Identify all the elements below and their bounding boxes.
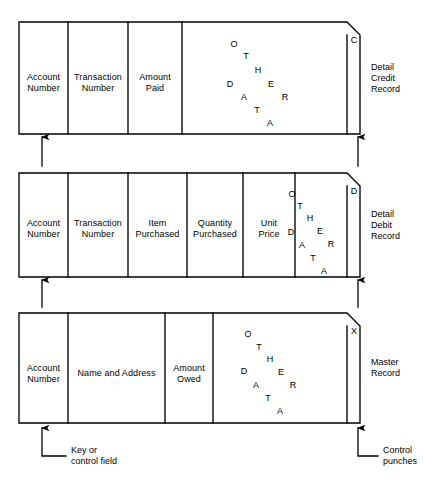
- cell-label-detail-debit-record-item-purchased-line-1: Item: [136, 218, 180, 229]
- other-data-letter-detail-credit-record-4: E: [268, 79, 274, 90]
- other-data-letter-detail-credit-record-9: A: [267, 118, 273, 129]
- control-punch-flag-master-record: X: [351, 326, 357, 337]
- other-data-letter-detail-debit-record-6: D: [288, 227, 295, 238]
- cell-label-detail-debit-record-transaction-number-line-1: Transaction: [74, 218, 122, 229]
- cell-label-detail-debit-record-quantity-purchased: QuantityPurchased: [193, 218, 237, 239]
- cell-label-detail-debit-record-unit-price-line-1: Unit: [258, 218, 279, 229]
- other-data-letter-detail-credit-record-7: A: [241, 92, 247, 103]
- side-label-detail-credit-record: DetailCreditRecord: [371, 62, 400, 95]
- other-data-letter-master-record-1: O: [244, 329, 251, 340]
- cell-label-detail-credit-record-transaction-number-line-1: Transaction: [74, 72, 122, 83]
- callout-key-or-control-field-text: Key orcontrol field: [71, 445, 117, 467]
- cell-label-master-record-name-and-address: Name and Address: [77, 368, 155, 379]
- cell-label-master-record-amount-owed-line-1: Amount: [173, 363, 205, 374]
- cell-label-detail-debit-record-transaction-number: TransactionNumber: [74, 218, 122, 239]
- side-label-detail-debit-record-line-3: Record: [371, 231, 400, 242]
- callout-control-punches-text-line-2: punches: [383, 456, 417, 467]
- callout-key-or-control-field-text-line-2: control field: [71, 456, 117, 467]
- other-data-letter-detail-credit-record-6: D: [227, 79, 234, 90]
- cell-label-detail-credit-record-transaction-number-line-2: Number: [74, 82, 122, 93]
- side-label-detail-credit-record-line-1: Detail: [371, 62, 400, 73]
- other-data-letter-master-record-6: D: [241, 366, 248, 377]
- control-punch-flag-detail-credit-record: C: [351, 35, 358, 46]
- cell-label-detail-credit-record-account-number-line-2: Number: [27, 82, 60, 93]
- other-data-letter-detail-credit-record-8: T: [254, 105, 260, 116]
- side-label-detail-debit-record-line-1: Detail: [371, 209, 400, 220]
- callout-key-or-control-field-leader: [42, 428, 66, 456]
- cell-label-master-record-account-number-line-2: Number: [27, 373, 60, 384]
- callout-key-or-control-field-text-line-1: Key or: [71, 445, 117, 456]
- cell-label-master-record-amount-owed: AmountOwed: [173, 363, 205, 384]
- cell-label-master-record-amount-owed-line-2: Owed: [173, 373, 205, 384]
- other-data-letter-detail-debit-record-2: T: [297, 201, 303, 212]
- cell-label-detail-debit-record-account-number: AccountNumber: [27, 218, 60, 239]
- cell-label-detail-debit-record-quantity-purchased-line-1: Quantity: [193, 218, 237, 229]
- other-data-letter-detail-credit-record-1: O: [230, 39, 237, 50]
- callout-control-punches-text: Controlpunches: [383, 445, 417, 467]
- cell-label-master-record-name-and-address-line-1: Name and Address: [77, 368, 155, 379]
- other-data-letter-detail-debit-record-9: A: [321, 266, 327, 277]
- cell-label-detail-credit-record-account-number: AccountNumber: [27, 72, 60, 93]
- other-data-letter-detail-debit-record-5: R: [328, 239, 335, 250]
- other-data-letter-master-record-2: T: [256, 342, 262, 353]
- cell-label-detail-debit-record-item-purchased-line-2: Purchased: [136, 228, 180, 239]
- cell-label-detail-credit-record-amount-paid-line-2: Paid: [139, 82, 171, 93]
- other-data-letter-detail-credit-record-5: R: [282, 92, 289, 103]
- other-data-letter-master-record-9: A: [277, 406, 283, 417]
- cell-label-detail-credit-record-transaction-number: TransactionNumber: [74, 72, 122, 93]
- other-data-letter-master-record-7: A: [253, 380, 259, 391]
- diagram-lines: [0, 0, 425, 480]
- other-data-letter-master-record-8: T: [265, 393, 271, 404]
- cell-label-detail-debit-record-transaction-number-line-2: Number: [74, 228, 122, 239]
- callout-control-punches-text-line-1: Control: [383, 445, 417, 456]
- side-label-master-record: MasterRecord: [371, 357, 400, 379]
- other-data-letter-master-record-5: R: [290, 380, 297, 391]
- other-data-letter-detail-debit-record-3: H: [307, 213, 314, 224]
- other-data-letter-detail-credit-record-3: H: [255, 65, 262, 76]
- side-label-master-record-line-1: Master: [371, 357, 400, 368]
- cell-label-master-record-account-number: AccountNumber: [27, 363, 60, 384]
- side-label-detail-debit-record: DetailDebitRecord: [371, 209, 400, 242]
- other-data-letter-detail-debit-record-8: T: [310, 253, 316, 264]
- side-label-master-record-line-2: Record: [371, 368, 400, 379]
- cell-label-detail-debit-record-item-purchased: ItemPurchased: [136, 218, 180, 239]
- other-data-letter-detail-debit-record-1: O: [288, 189, 295, 200]
- cell-label-detail-debit-record-unit-price: UnitPrice: [258, 218, 279, 239]
- side-label-detail-credit-record-line-2: Credit: [371, 73, 400, 84]
- cell-label-detail-credit-record-amount-paid-line-1: Amount: [139, 72, 171, 83]
- record-layout-diagram: AccountNumberTransactionNumberAmountPaid…: [0, 0, 425, 480]
- control-punch-flag-detail-debit-record: D: [351, 186, 358, 197]
- callout-control-punches-leader: [358, 428, 378, 456]
- record-outline-detail-debit-record: [19, 173, 360, 277]
- other-data-letter-master-record-4: E: [278, 367, 284, 378]
- other-data-letter-detail-credit-record-2: T: [243, 51, 249, 62]
- other-data-letter-detail-debit-record-7: A: [299, 240, 305, 251]
- cell-label-detail-credit-record-amount-paid: AmountPaid: [139, 72, 171, 93]
- cell-label-detail-credit-record-account-number-line-1: Account: [27, 72, 60, 83]
- side-label-detail-debit-record-line-2: Debit: [371, 220, 400, 231]
- other-data-letter-detail-debit-record-4: E: [317, 226, 323, 237]
- cell-label-master-record-account-number-line-1: Account: [27, 363, 60, 374]
- cell-label-detail-debit-record-account-number-line-1: Account: [27, 218, 60, 229]
- record-outline-detail-credit-record: [19, 22, 360, 134]
- cell-label-detail-debit-record-unit-price-line-2: Price: [258, 228, 279, 239]
- cell-label-detail-debit-record-account-number-line-2: Number: [27, 228, 60, 239]
- cell-label-detail-debit-record-quantity-purchased-line-2: Purchased: [193, 228, 237, 239]
- other-data-letter-master-record-3: H: [267, 354, 274, 365]
- side-label-detail-credit-record-line-3: Record: [371, 84, 400, 95]
